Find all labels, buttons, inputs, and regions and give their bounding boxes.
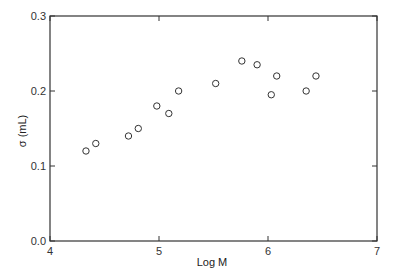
plot-frame xyxy=(50,16,377,241)
y-axis-ticks: 0.00.10.20.3 xyxy=(31,10,377,247)
x-tick-label: 7 xyxy=(374,245,380,257)
data-points xyxy=(83,58,319,154)
data-point xyxy=(212,80,218,86)
x-axis-title: Log M xyxy=(197,256,228,268)
data-point xyxy=(274,73,280,79)
data-point xyxy=(166,110,172,116)
y-tick-label: 0.0 xyxy=(31,235,46,247)
data-point xyxy=(175,88,181,94)
data-point xyxy=(125,133,131,139)
data-point xyxy=(135,125,141,131)
y-tick-label: 0.3 xyxy=(31,10,46,22)
plot-border xyxy=(50,16,377,241)
x-tick-label: 6 xyxy=(265,245,271,257)
data-point xyxy=(313,73,319,79)
x-axis-ticks: 4567 xyxy=(47,16,380,257)
data-point xyxy=(154,103,160,109)
data-point xyxy=(83,148,89,154)
data-point xyxy=(268,92,274,98)
data-point xyxy=(254,62,260,68)
y-tick-label: 0.1 xyxy=(31,160,46,172)
x-tick-label: 5 xyxy=(156,245,162,257)
scatter-chart: 4567 0.00.10.20.3 Log M σ (mL) xyxy=(0,0,400,277)
data-point xyxy=(239,58,245,64)
y-tick-label: 0.2 xyxy=(31,85,46,97)
x-tick-label: 4 xyxy=(47,245,53,257)
data-point xyxy=(93,140,99,146)
y-axis-title: σ (mL) xyxy=(16,115,28,147)
data-point xyxy=(303,88,309,94)
